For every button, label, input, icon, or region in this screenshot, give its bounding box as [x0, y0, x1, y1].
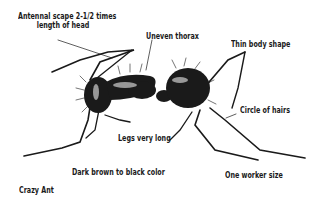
label-worker-size: One worker size	[225, 171, 283, 180]
label-antennal-scape-line2: length of head	[18, 21, 116, 30]
label-color: Dark brown to black color	[72, 168, 165, 177]
ant-diagram: Antennal scape 2-1/2 times length of hea…	[0, 0, 325, 200]
label-circle-of-hairs: Circle of hairs	[240, 106, 290, 115]
label-legs-very-long: Legs very long	[118, 134, 171, 143]
figure-caption: Crazy Ant	[19, 186, 54, 195]
label-thin-body-shape: Thin body shape	[231, 40, 290, 49]
label-uneven-thorax: Uneven thorax	[146, 32, 199, 41]
label-antennal-scape: Antennal scape 2-1/2 times length of hea…	[18, 12, 116, 30]
